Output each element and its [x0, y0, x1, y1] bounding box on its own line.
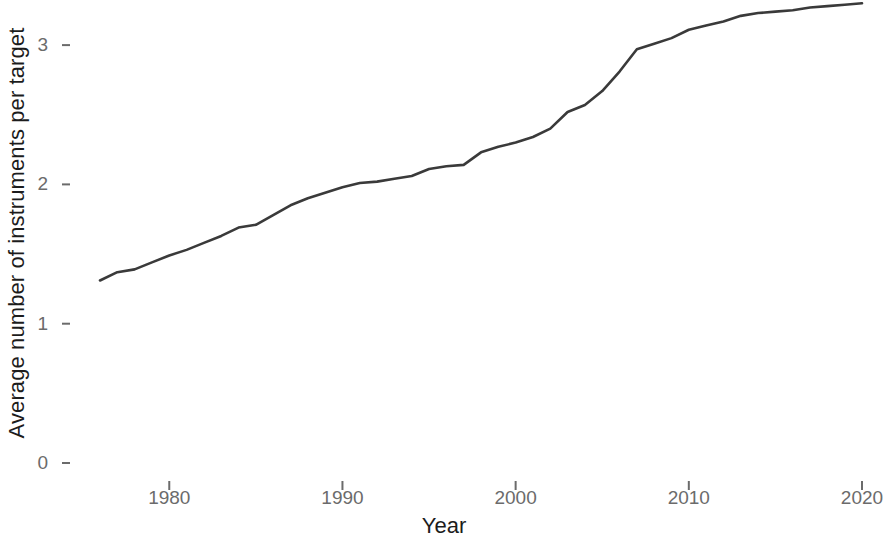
x-tick-label: 2000: [476, 487, 556, 509]
y-axis-title: Average number of instruments per target: [0, 0, 34, 466]
series-line: [100, 3, 862, 280]
line-chart: 0123 19801990200020102020 Average number…: [0, 0, 888, 545]
x-tick-label: 1980: [129, 487, 209, 509]
x-tick-label: 1990: [302, 487, 382, 509]
x-tick-label: 2010: [649, 487, 729, 509]
x-tick-label: 2020: [822, 487, 888, 509]
x-axis-title: Year: [0, 513, 888, 539]
y-axis-ticks: [62, 45, 70, 463]
plot-area: [0, 0, 888, 545]
